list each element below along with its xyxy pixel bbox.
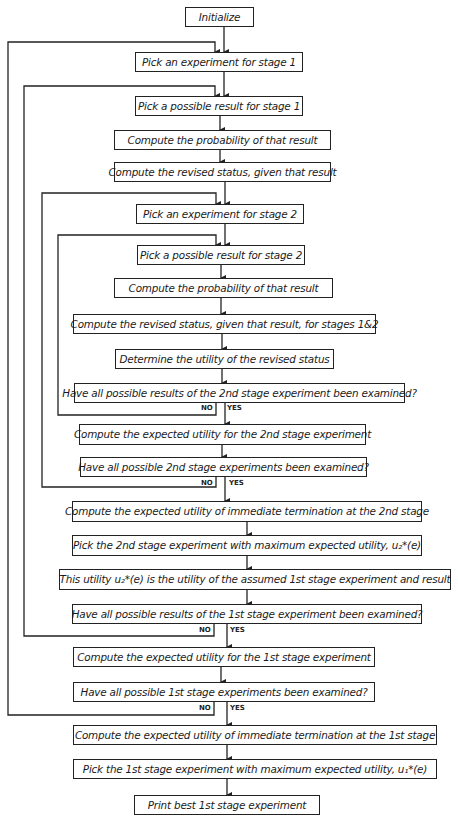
determine-utility-box: Determine the utility of the revised sta…: [115, 349, 334, 369]
pick-experiment-stage1-box: Pick an experiment for stage 1: [135, 52, 303, 72]
probability-stage2-box: Compute the probability of that result: [114, 278, 333, 298]
yes-label-experiments-stage2: YES: [229, 480, 244, 487]
connector-lines: [0, 0, 458, 826]
expected-utility-stage1-box: Compute the expected utility for the 1st…: [73, 647, 375, 667]
initialize-box: Initialize: [185, 7, 254, 27]
revised-status-stage1-box: Compute the revised status, given that r…: [114, 162, 331, 182]
max-utility-stage1-box: Pick the 1st stage experiment with maxim…: [73, 759, 437, 779]
revised-status-stage12-box: Compute the revised status, given that r…: [73, 314, 376, 334]
question-results-stage2-box: Have all possible results of the 2nd sta…: [74, 383, 405, 403]
termination-utility-stage1-box: Compute the expected utility of immediat…: [73, 725, 437, 745]
question-experiments-stage2-box: Have all possible 2nd stage experiments …: [80, 457, 367, 477]
no-label-results-stage2: NO: [201, 405, 213, 412]
probability-stage1-box: Compute the probability of that result: [114, 130, 331, 150]
yes-label-experiments-stage1: YES: [230, 705, 245, 712]
pick-result-stage2-box: Pick a possible result for stage 2: [137, 245, 305, 265]
max-utility-stage2-box: Pick the 2nd stage experiment with maxim…: [72, 535, 422, 556]
assumed-utility-box: This utility u₂*(e) is the utility of th…: [59, 569, 451, 590]
pick-result-stage1-box: Pick a possible result for stage 1: [135, 96, 303, 116]
termination-utility-stage2-box: Compute the expected utility of immediat…: [72, 501, 422, 522]
question-results-stage1-box: Have all possible results of the 1st sta…: [72, 604, 422, 624]
no-label-experiments-stage2: NO: [201, 480, 213, 487]
print-best-box: Print best 1st stage experiment: [134, 795, 320, 815]
yes-label-results-stage2: YES: [227, 405, 242, 412]
flowchart: Initialize Pick an experiment for stage …: [0, 0, 458, 826]
no-label-experiments-stage1: NO: [199, 705, 211, 712]
no-label-results-stage1: NO: [199, 627, 211, 634]
question-experiments-stage1-box: Have all possible 1st stage experiments …: [73, 682, 375, 702]
pick-experiment-stage2-box: Pick an experiment for stage 2: [136, 204, 304, 224]
expected-utility-stage2-box: Compute the expected utility for the 2nd…: [79, 424, 366, 445]
yes-label-results-stage1: YES: [230, 627, 245, 634]
